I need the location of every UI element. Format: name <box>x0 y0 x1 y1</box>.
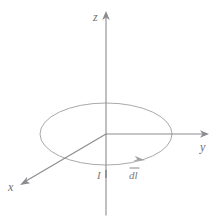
current-label: I <box>96 169 102 181</box>
loop-current-direction-arrowhead <box>133 156 145 161</box>
y-axis-label: y <box>199 140 206 154</box>
physics-diagram-figure: z y x I dl <box>0 0 220 222</box>
z-axis-label: z <box>92 10 98 24</box>
x-axis-arrowhead <box>20 177 30 185</box>
diagram-canvas: z y x I dl <box>0 0 220 222</box>
x-axis-label: x <box>7 180 14 194</box>
x-axis-line <box>26 134 106 181</box>
line-element-label: dl <box>129 169 138 181</box>
